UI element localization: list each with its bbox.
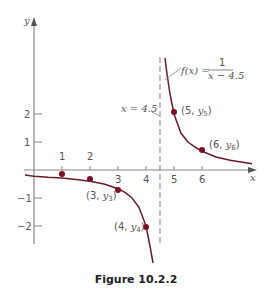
point-1 [59, 171, 65, 177]
function-graph: y x 1 2 3 4 5 6 2 1 −1 −2 x = 4.5 [0, 0, 272, 304]
point-4-label: (4, y4) [114, 221, 145, 234]
figure-caption: Figure 10.2.2 [0, 273, 272, 286]
x-tick-5: 5 [171, 174, 177, 185]
x-tick-4: 4 [143, 174, 149, 185]
point-3-label: (3, y3) [86, 190, 117, 203]
x-tick-1: 1 [59, 151, 65, 162]
x-tick-6: 6 [199, 174, 205, 185]
point-6 [199, 147, 205, 153]
curve-left-branch [25, 175, 153, 263]
y-axis-arrow-icon [31, 17, 37, 26]
y-tick-neg1: −1 [17, 193, 32, 204]
y-axis-label: y [23, 15, 30, 26]
x-axis-label: x [250, 172, 256, 183]
function-label-denominator: x − 4.5 [208, 70, 244, 81]
x-tick-2: 2 [87, 151, 93, 162]
y-tick-neg2: −2 [17, 221, 32, 232]
point-5-label: (5, y5) [181, 105, 212, 118]
function-label-lhs: f(x) = [180, 65, 210, 76]
y-tick-1: 1 [24, 137, 30, 148]
point-6-label: (6, y6) [209, 139, 240, 152]
y-tick-2: 2 [24, 109, 30, 120]
function-label-numerator: 1 [219, 57, 225, 68]
x-tick-3: 3 [115, 174, 121, 185]
point-2 [87, 176, 93, 182]
point-5 [171, 109, 177, 115]
